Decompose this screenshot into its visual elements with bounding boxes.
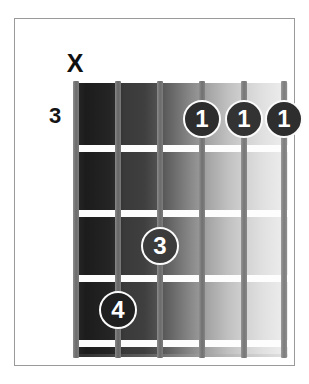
mute-marker-x-icon: X [62, 50, 88, 76]
string-3 [157, 81, 163, 358]
finger-marker-string6-fret1: 1 [265, 100, 303, 138]
fret-line-4 [73, 340, 288, 347]
finger-marker-string2-fret4: 4 [99, 291, 137, 329]
figure-frame: X 3 1 1 1 3 4 [14, 18, 295, 366]
finger-marker-string3-fret3: 3 [141, 227, 179, 265]
string-1 [73, 81, 79, 358]
fret-line-2 [73, 210, 288, 217]
fret-line-1 [73, 145, 288, 152]
fretboard-bottom-edge [73, 354, 288, 357]
start-fret-label: 3 [44, 103, 66, 129]
fret-line-3 [73, 275, 288, 282]
finger-marker-string4-fret1: 1 [183, 100, 221, 138]
chord-diagram: X 3 1 1 1 3 4 [0, 0, 309, 384]
finger-marker-string5-fret1: 1 [225, 100, 263, 138]
